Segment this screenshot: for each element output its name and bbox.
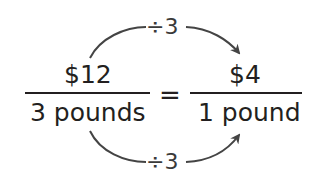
bottom-divide-label: ÷3 (146, 151, 178, 173)
equals-sign: = (159, 82, 181, 108)
bottom-arrow-left-arc (90, 131, 146, 162)
bottom-arrow-right-arc (186, 135, 239, 162)
top-arrow-right-arc (186, 27, 239, 53)
left-numerator: $12 (64, 62, 112, 87)
right-denominator: 1 pound (198, 100, 301, 125)
right-numerator: $4 (229, 62, 261, 87)
top-divide-label: ÷3 (146, 16, 178, 38)
left-denominator: 3 pounds (30, 100, 146, 125)
top-arrow-left-arc (90, 27, 146, 58)
